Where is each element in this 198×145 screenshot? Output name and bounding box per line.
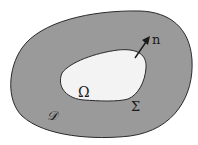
domain-diagram: n Ω Σ 𝒟 [0, 0, 198, 145]
sigma-label: Σ [131, 99, 140, 114]
normal-label: n [152, 32, 161, 47]
omega-label: Ω [78, 84, 90, 100]
